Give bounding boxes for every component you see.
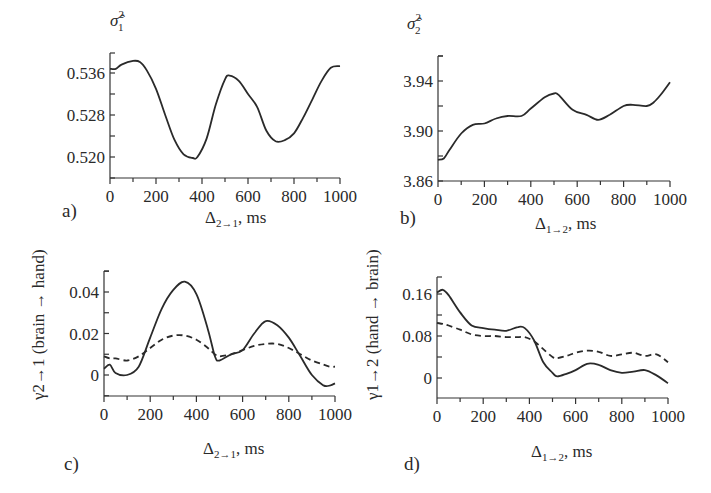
panel-c-xlabel: Δ2→1, ms — [203, 439, 264, 460]
panel-a-xlabel: Δ2→1, ms — [205, 208, 266, 229]
panel-d-letter: d) — [404, 453, 420, 475]
panel-c-letter: c) — [64, 453, 79, 475]
x-tick-label: 600 — [563, 407, 589, 426]
x-tick-label: 0 — [106, 187, 115, 206]
panel-d-chart: 0200400600800100000.080.16 — [402, 277, 685, 426]
panel-d-ylabel: γ1→2 (hand → brain) — [363, 249, 382, 401]
y-tick-label: 0.536 — [67, 64, 105, 83]
y-tick-label: 3.86 — [403, 172, 433, 191]
y-tick-label: 0.08 — [402, 327, 432, 346]
x-tick-label: 800 — [611, 190, 637, 209]
x-tick-label: 600 — [230, 405, 256, 424]
y-tick-label: 0 — [91, 366, 100, 385]
x-tick-label: 0 — [434, 190, 443, 209]
solid-line-series — [104, 282, 335, 387]
panel-b-xlabel: Δ1→2, ms — [535, 214, 596, 235]
y-tick-label: 0.02 — [69, 325, 99, 344]
y-tick-label: 3.90 — [403, 122, 433, 141]
panel-a-ylabel: σ̂21 — [110, 8, 125, 33]
panel-c-chart: 0200400600800100000.020.04 — [69, 271, 352, 424]
y-tick-label: 0.16 — [402, 285, 432, 304]
panel-a-letter: a) — [62, 200, 77, 222]
x-tick-label: 0 — [100, 405, 109, 424]
x-tick-label: 400 — [518, 190, 544, 209]
x-tick-label: 200 — [137, 405, 163, 424]
y-tick-label: 0.520 — [67, 148, 105, 167]
panel-b-chart: 020040060080010003.863.903.94 — [403, 56, 687, 209]
y-tick-label: 0.04 — [69, 283, 99, 302]
x-tick-label: 600 — [235, 187, 261, 206]
x-tick-label: 800 — [609, 407, 635, 426]
solid-line-series — [437, 290, 668, 384]
x-tick-label: 0 — [433, 407, 442, 426]
x-tick-label: 400 — [184, 405, 210, 424]
x-tick-label: 800 — [276, 405, 302, 424]
x-tick-label: 1000 — [653, 190, 687, 209]
x-tick-label: 400 — [189, 187, 215, 206]
panel-a-chart: 020040060080010000.5200.5280.536 — [67, 53, 357, 206]
panel-b-ylabel: σ̂22 — [407, 11, 422, 36]
x-tick-label: 800 — [281, 187, 307, 206]
x-tick-label: 1000 — [651, 407, 685, 426]
y-tick-label: 3.94 — [403, 72, 433, 91]
x-tick-label: 600 — [564, 190, 590, 209]
panel-d-xlabel: Δ1→2, ms — [531, 442, 592, 463]
x-tick-label: 200 — [472, 190, 498, 209]
y-tick-label: 0 — [424, 369, 433, 388]
solid-line-series — [438, 82, 670, 160]
figure-canvas: 020040060080010000.5200.5280.536 0200400… — [0, 0, 711, 493]
solid-line-series — [110, 61, 340, 159]
panel-b-letter: b) — [400, 207, 416, 229]
dashed-line-series — [437, 323, 668, 362]
x-tick-label: 400 — [517, 407, 543, 426]
x-tick-label: 1000 — [318, 405, 352, 424]
dashed-line-series — [104, 335, 335, 367]
x-tick-label: 200 — [143, 187, 169, 206]
y-tick-label: 0.528 — [67, 106, 105, 125]
x-tick-label: 200 — [470, 407, 496, 426]
panel-c-ylabel: γ2→1 (brain → hand) — [29, 249, 48, 401]
x-tick-label: 1000 — [323, 187, 357, 206]
